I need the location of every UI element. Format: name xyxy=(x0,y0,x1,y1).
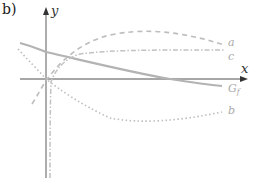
x-axis-label: x xyxy=(241,61,248,76)
curve-b xyxy=(18,49,222,121)
curve-label-g-f: Gf xyxy=(228,82,240,96)
y-axis-label: y xyxy=(51,3,58,18)
figure-part-label: b) xyxy=(2,1,16,17)
x-axis-arrow-icon xyxy=(240,76,248,82)
curve-label-b: b xyxy=(228,104,235,117)
curve-label-g-main: G xyxy=(228,82,237,95)
y-axis xyxy=(43,7,49,178)
curve-a xyxy=(32,31,224,104)
curve-label-c: c xyxy=(228,50,234,63)
curve-c xyxy=(50,50,224,178)
curve-label-g-subscript: f xyxy=(237,87,240,96)
graph-canvas xyxy=(0,0,254,180)
curve-label-a: a xyxy=(228,36,235,49)
function-graph-figure: b) y x a c Gf b xyxy=(0,0,254,180)
x-axis xyxy=(20,76,248,82)
y-axis-arrow-icon xyxy=(43,7,49,15)
